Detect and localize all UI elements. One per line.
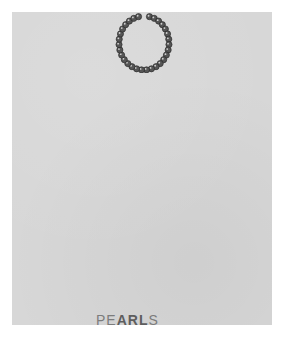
caption-obscured: ARL <box>117 312 149 325</box>
caption-prefix: PE <box>96 312 117 325</box>
pearl-necklace-icon <box>112 12 176 73</box>
caption-suffix: S <box>148 312 158 325</box>
caption-text: PEARLS <box>96 312 159 325</box>
photo-panel: PEARLS <box>12 12 272 325</box>
